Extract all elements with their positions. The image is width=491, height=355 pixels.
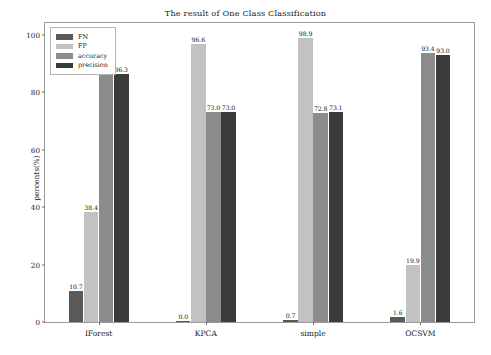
bar-value-label: 0.7 bbox=[286, 312, 296, 319]
bar-fp-kpca: 96.6 bbox=[191, 44, 206, 322]
legend-label: accuracy bbox=[78, 52, 107, 60]
legend-swatch-icon bbox=[56, 53, 73, 59]
bar-value-label: 0.0 bbox=[178, 313, 188, 320]
bar-value-label: 96.6 bbox=[192, 36, 205, 43]
bar-precision-kpca: 73.0 bbox=[221, 112, 236, 322]
bar-value-label: 38.4 bbox=[84, 204, 97, 211]
bar-value-label: 19.9 bbox=[406, 257, 419, 264]
y-tick-label: 80 bbox=[31, 88, 40, 97]
x-tick-label: OCSVM bbox=[405, 329, 436, 338]
chart-title: The result of One Class Classification bbox=[0, 8, 491, 18]
x-tick-label: KPCA bbox=[195, 329, 217, 338]
bar-value-label: 73.1 bbox=[329, 104, 342, 111]
x-tick-label: IForest bbox=[85, 329, 113, 338]
legend-swatch-icon bbox=[56, 44, 73, 50]
bar-fn-kpca: 0.0 bbox=[176, 321, 191, 322]
bar-precision-simple: 73.1 bbox=[329, 112, 344, 322]
legend-item-fp[interactable]: FP bbox=[56, 42, 108, 52]
bar-value-label: 86.3 bbox=[115, 66, 128, 73]
bar-value-label: 93.0 bbox=[436, 47, 449, 54]
bar-accuracy-kpca: 73.0 bbox=[206, 112, 221, 322]
bar-fn-iforest: 10.7 bbox=[69, 291, 84, 322]
legend-label: FN bbox=[78, 33, 88, 41]
x-tick-label: simple bbox=[300, 329, 325, 338]
y-tick-label: 0 bbox=[35, 318, 40, 327]
bar-precision-iforest: 86.3 bbox=[114, 74, 129, 322]
y-tick-label: 20 bbox=[31, 260, 40, 269]
y-tick-label: 40 bbox=[31, 203, 40, 212]
legend-label: FP bbox=[78, 42, 87, 50]
legend-item-accuracy[interactable]: accuracy bbox=[56, 51, 108, 61]
bar-value-label: 73.0 bbox=[222, 104, 235, 111]
bar-value-label: 93.4 bbox=[421, 45, 434, 52]
legend-label: precision bbox=[78, 61, 108, 69]
bar-fp-iforest: 38.4 bbox=[84, 212, 99, 322]
legend-item-fn[interactable]: FN bbox=[56, 32, 108, 42]
bar-value-label: 1.6 bbox=[393, 309, 403, 316]
bar-accuracy-ocsvm: 93.4 bbox=[421, 53, 436, 322]
bar-value-label: 98.9 bbox=[299, 30, 312, 37]
bar-value-label: 10.7 bbox=[69, 283, 82, 290]
x-tick-mark bbox=[313, 322, 314, 325]
x-tick-mark bbox=[420, 322, 421, 325]
bar-accuracy-iforest: 86.3 bbox=[99, 74, 114, 322]
x-tick-mark bbox=[206, 322, 207, 325]
bar-fn-simple: 0.7 bbox=[283, 320, 298, 322]
bar-value-label: 72.8 bbox=[314, 105, 327, 112]
legend-swatch-icon bbox=[56, 63, 73, 69]
chart-figure: The result of One Class Classification p… bbox=[0, 0, 491, 355]
bar-value-label: 73.0 bbox=[207, 104, 220, 111]
y-tick-label: 60 bbox=[31, 145, 40, 154]
legend-item-precision[interactable]: precision bbox=[56, 61, 108, 71]
y-tick-label: 100 bbox=[26, 30, 40, 39]
bar-fp-simple: 98.9 bbox=[298, 38, 313, 322]
bar-accuracy-simple: 72.8 bbox=[313, 113, 328, 322]
x-tick-mark bbox=[99, 322, 100, 325]
legend-swatch-icon bbox=[56, 34, 73, 40]
bar-fn-ocsvm: 1.6 bbox=[390, 317, 405, 322]
y-axis-label: percents(%) bbox=[32, 155, 41, 200]
bar-precision-ocsvm: 93.0 bbox=[436, 55, 451, 322]
chart-legend: FNFPaccuracyprecision bbox=[50, 27, 116, 75]
bar-fp-ocsvm: 19.9 bbox=[406, 265, 421, 322]
